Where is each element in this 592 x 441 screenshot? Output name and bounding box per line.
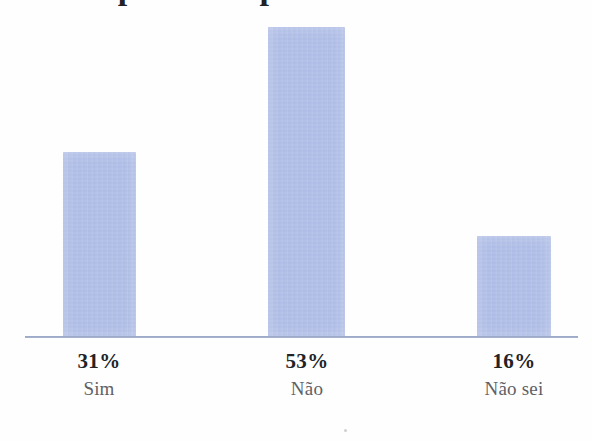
bar-nao — [268, 27, 345, 337]
label-group-nao: 53% Não — [247, 349, 367, 400]
plot-area: 31% Sim 53% Não 16% Não sei — [0, 0, 592, 441]
chart-screenshot: você é pobre ou pretende 31% Sim 53% Não… — [0, 0, 592, 441]
scan-artifact-speck — [344, 429, 347, 432]
label-group-sim: 31% Sim — [39, 349, 159, 400]
bar-sim — [63, 152, 136, 337]
value-label-sim: 31% — [39, 349, 159, 373]
label-group-nao-sei: 16% Não sei — [454, 349, 574, 400]
category-label-nao-sei: Não sei — [454, 378, 574, 400]
value-label-nao: 53% — [247, 349, 367, 373]
category-label-nao: Não — [247, 378, 367, 400]
category-label-sim: Sim — [39, 378, 159, 400]
bar-nao-sei — [477, 236, 551, 337]
baseline-axis — [25, 336, 578, 338]
value-label-nao-sei: 16% — [454, 349, 574, 373]
